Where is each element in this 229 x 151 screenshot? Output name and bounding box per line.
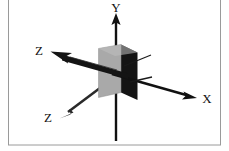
axes-diagram: Y X Z Z [0, 0, 229, 151]
y-axis-label: Y [111, 0, 121, 15]
x-axis-label: X [202, 91, 212, 106]
figure-root: Y X Z Z [0, 0, 229, 151]
z-axis-upper-label: Z [35, 43, 43, 58]
z-axis-lower-label: Z [44, 110, 52, 125]
